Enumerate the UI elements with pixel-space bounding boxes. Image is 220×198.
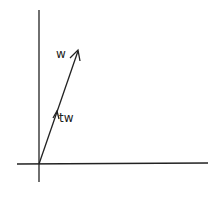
vector-w: [39, 51, 78, 164]
vector-diagram: w tw: [0, 0, 220, 198]
label-tw: tw: [59, 111, 74, 125]
label-w: w: [56, 47, 66, 61]
diagram-svg: w tw: [0, 0, 220, 198]
x-axis: [17, 163, 208, 164]
